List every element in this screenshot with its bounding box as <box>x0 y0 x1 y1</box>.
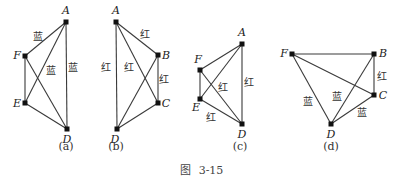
edge-AF <box>25 22 66 56</box>
edge-AB <box>116 22 158 55</box>
vertex-label-F: F <box>12 49 21 62</box>
vertex-F <box>23 54 28 59</box>
edge-color-label: 红 <box>140 28 150 40</box>
edge-ED <box>25 103 67 129</box>
vertex-label-E: E <box>12 97 21 110</box>
edge-color-label: 红 <box>206 111 216 123</box>
edge-color-label: 蓝 <box>357 107 367 118</box>
edge-color-label: 蓝 <box>33 31 43 42</box>
edge-AF <box>200 44 242 70</box>
vertex-F <box>290 52 295 57</box>
vertex-D <box>115 127 120 132</box>
vertex-F <box>198 68 203 73</box>
vertex-C <box>156 101 161 106</box>
vertex-label-E: E <box>191 101 200 114</box>
edge-color-label: 蓝 <box>332 91 342 102</box>
edge-color-label: 红 <box>377 70 387 82</box>
vertex-E <box>23 101 28 106</box>
vertex-D <box>240 122 245 127</box>
edge-color-label: 红 <box>218 81 228 93</box>
edge-AD <box>66 22 67 129</box>
subfigure-label-b: (b) <box>108 140 124 153</box>
figure-3-15: AFED蓝蓝蓝(a)ABCD红红红红(b)AFED红红红(c)FBCD红蓝蓝蓝(… <box>0 0 397 183</box>
edge-color-label: 红 <box>244 76 254 88</box>
vertex-label-A: A <box>111 4 120 17</box>
subfigure-label-c: (c) <box>233 140 248 153</box>
edge-FD <box>292 54 331 124</box>
edge-color-label: 蓝 <box>303 96 313 107</box>
vertex-label-A: A <box>237 26 246 39</box>
vertex-D <box>65 127 70 132</box>
vertex-B <box>156 53 161 58</box>
vertex-A <box>114 20 119 25</box>
figure-caption-number: 3-15 <box>199 164 224 177</box>
edge-color-label: 红 <box>101 61 111 73</box>
edge-AC <box>116 22 158 103</box>
edge-color-label: 红 <box>124 61 134 73</box>
vertex-A <box>64 20 69 25</box>
vertex-label-B: B <box>378 47 387 60</box>
graph-panel-a: AFED蓝蓝蓝(a) <box>12 4 78 153</box>
graph-panel-c: AFED红红红(c) <box>191 26 254 153</box>
graph-panel-b: ABCD红红红红(b) <box>101 4 171 153</box>
vertex-label-F: F <box>279 47 288 60</box>
edge-CD <box>117 103 158 129</box>
edge-color-label: 蓝 <box>68 62 78 73</box>
graph-panel-d: FBCD红蓝蓝蓝(d) <box>279 47 388 153</box>
edge-color-label: 蓝 <box>46 65 56 76</box>
edge-AD <box>116 22 117 129</box>
vertex-label-B: B <box>161 49 170 62</box>
vertex-label-C: C <box>379 89 388 102</box>
figure-caption-prefix: 图 <box>180 164 191 177</box>
subfigure-label-a: (a) <box>58 140 73 153</box>
vertex-label-F: F <box>193 53 202 66</box>
vertex-D <box>329 122 334 127</box>
vertex-label-C: C <box>162 97 171 110</box>
edge-BD <box>331 54 374 124</box>
edge-color-label: 红 <box>159 73 169 85</box>
vertex-B <box>372 52 377 57</box>
vertex-label-A: A <box>61 4 70 17</box>
subfigure-label-d: (d) <box>323 140 339 153</box>
vertex-A <box>240 42 245 47</box>
vertex-C <box>372 93 377 98</box>
